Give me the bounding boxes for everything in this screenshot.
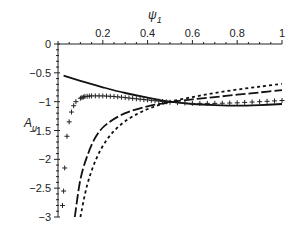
- x-tick-label: 0.8: [230, 27, 245, 39]
- plus-marker: [250, 100, 255, 105]
- x-tick-label: 0.6: [185, 27, 200, 39]
- series-plus-markers: [60, 93, 285, 208]
- plus-marker: [67, 119, 72, 124]
- y-tick-label: −2: [38, 153, 51, 165]
- plus-marker: [64, 134, 69, 139]
- y-tick-label: 0: [45, 38, 51, 50]
- plus-marker: [190, 101, 195, 106]
- y-tick-label: −0.5: [29, 67, 51, 79]
- x-axis-label: ψ1: [148, 8, 162, 25]
- line-chart: 0.20.40.60.810−0.5−1−1.5−2−2.5−3 ψ1 Au: [0, 0, 301, 235]
- y-tick-label: −2.5: [29, 182, 51, 194]
- y-tick-label: −1: [38, 96, 51, 108]
- x-tick-label: 1: [279, 27, 285, 39]
- plus-marker: [242, 100, 247, 105]
- plus-marker: [69, 110, 74, 115]
- plus-marker: [257, 99, 262, 104]
- plus-marker: [272, 98, 277, 103]
- series-long-dash: [75, 90, 282, 217]
- x-tick-label: 0.2: [95, 27, 110, 39]
- axes: 0.20.40.60.810−0.5−1−1.5−2−2.5−3: [29, 27, 285, 223]
- plus-marker: [280, 98, 285, 103]
- plus-marker: [182, 101, 187, 106]
- series-group: [60, 76, 285, 217]
- plus-marker: [265, 99, 270, 104]
- y-tick-label: −3: [38, 211, 51, 223]
- x-tick-label: 0.4: [140, 27, 155, 39]
- plus-marker: [62, 165, 67, 170]
- plus-marker: [235, 100, 240, 105]
- plus-marker: [60, 203, 65, 208]
- plus-marker: [61, 189, 66, 194]
